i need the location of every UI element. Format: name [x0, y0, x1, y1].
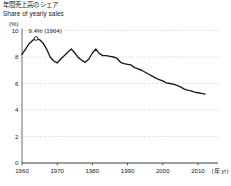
x-tick-label-2010: 2010: [191, 167, 205, 174]
y-tick-label-4: 4: [15, 106, 19, 113]
y-axis-tick-labels: 0246810: [12, 27, 19, 167]
x-tick-label-2000: 2000: [156, 167, 170, 174]
x-tick-label-1990: 1990: [121, 167, 135, 174]
chart-plot-area: 0246810 196019701980199020002010 9.4% (1…: [0, 0, 231, 186]
peak-annotation-label: 9.4% (1964): [29, 27, 62, 34]
data-series-line: [22, 38, 205, 94]
y-tick-label-8: 8: [15, 53, 19, 60]
x-axis-unit-label: (年 yr): [212, 167, 229, 175]
x-tick-label-1960: 1960: [15, 167, 29, 174]
y-tick-label-6: 6: [15, 80, 19, 87]
gridlines-group: [22, 31, 218, 137]
y-tick-label-2: 2: [15, 133, 19, 140]
y-tick-label-10: 10: [12, 27, 19, 34]
x-tick-label-1970: 1970: [50, 167, 64, 174]
peak-marker-1964: [34, 37, 38, 41]
y-tick-label-0: 0: [15, 159, 19, 166]
chart-figure: 年間売上高のシェア Share of yearly sales (%) 0246…: [0, 0, 231, 186]
x-axis-tick-labels: 196019701980199020002010: [15, 163, 205, 174]
axis-lines-group: [22, 29, 218, 164]
x-tick-label-1980: 1980: [86, 167, 100, 174]
